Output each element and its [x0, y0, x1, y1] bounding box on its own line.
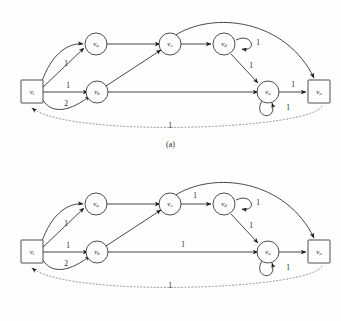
diagram-panel-a: vi va vb vc vd ve vo 1 1 2 1 1 1 1 1 [0, 0, 341, 160]
edge-vd-selfloop [236, 38, 251, 49]
diagram-panel-b: vi va vb vc vd ve vo 1 1 2 1 1 1 1 1 1 (… [0, 160, 341, 321]
edge-label-vd-selfloop: 1 [256, 198, 260, 207]
edge-vi-va-curve [40, 204, 83, 248]
edge-label-vo-vi-dotted: 1 [168, 281, 172, 290]
edge-vi-va-straight [40, 208, 84, 250]
edge-label-vi-va: 1 [64, 59, 68, 68]
edge-vo-vi-dotted [32, 106, 322, 127]
edge-vo-vi-dotted [32, 266, 322, 287]
edge-vd-selfloop [236, 198, 251, 209]
edge-vc-vo-arc [174, 22, 314, 78]
edge-label-vi-vb-straight: 1 [66, 241, 70, 250]
caption-a: (a) [0, 140, 341, 149]
edge-label-vd-selfloop: 1 [256, 38, 260, 47]
edge-label-vo-vi-dotted: 1 [168, 121, 172, 130]
edge-vd-ve [231, 214, 258, 243]
edge-label-vd-ve: 1 [249, 61, 253, 70]
edge-vi-va-curve [40, 44, 83, 88]
edge-label-ve-vo: 1 [291, 80, 295, 89]
edge-label-vc-vd: 1 [193, 191, 197, 200]
edge-label-vi-vb-curve: 2 [64, 259, 68, 268]
graph-svg-a: vi va vb vc vd ve vo 1 1 2 1 1 1 1 1 [0, 0, 341, 145]
edge-vi-va-straight [40, 48, 84, 90]
edge-label-ve-selfloop: 1 [286, 103, 290, 112]
edge-vb-vc [106, 210, 161, 246]
edge-label-vi-va: 1 [64, 219, 68, 228]
edge-label-vi-vb-curve: 2 [64, 99, 68, 108]
edge-label-vi-vb-straight: 1 [66, 81, 70, 90]
figure-root: vi va vb vc vd ve vo 1 1 2 1 1 1 1 1 [0, 0, 341, 321]
edge-label-vd-ve: 1 [249, 221, 253, 230]
edge-label-ve-selfloop: 1 [286, 263, 290, 272]
edge-vd-ve [231, 54, 258, 83]
edge-vb-vc [106, 50, 161, 86]
edge-label-vb-ve: 1 [181, 240, 185, 249]
graph-svg-b: vi va vb vc vd ve vo 1 1 2 1 1 1 1 1 1 [0, 160, 341, 305]
